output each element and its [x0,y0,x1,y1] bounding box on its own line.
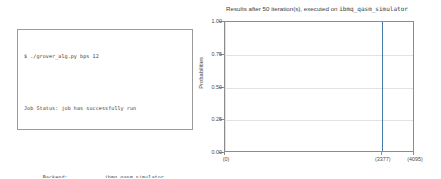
x-tick-mark-3377 [381,152,382,155]
y-tick-label: 0.25 [212,116,223,122]
y-axis-label: Probabilities [198,38,204,108]
y-tick-label: 0.75 [212,51,223,57]
x-tick-label-3377: (3377) [375,156,391,162]
x-tick-mark-4095 [413,152,414,155]
x-tick-label-0: (0) [223,156,230,162]
gridline-vertical [225,22,226,151]
entry-value: ibmq_qasm_simulator [105,174,164,179]
chart-title-backend: ibmq_qasm_simulator [339,5,408,12]
terminal-text: $ ./grover_alg.py bps 12 Job Status: job… [24,35,186,178]
y-tick-label: 0.00 [212,149,223,155]
gridline-horizontal [225,55,413,56]
chart-title: Results after 50 iteration(s), executed … [193,5,441,12]
x-tick-mark-0 [224,152,225,155]
y-tick-label: 1.00 [212,18,223,24]
x-tick-label-4095: (4095) [407,156,423,162]
results-chart: Results after 50 iteration(s), executed … [193,0,441,178]
plot-area [224,21,414,152]
terminal-output-panel: $ ./grover_alg.py bps 12 Job Status: job… [17,29,193,130]
terminal-spacer [24,130,186,139]
chart-title-prefix: Results after 50 iteration(s), executed … [226,5,339,12]
terminal-entry-backend: Backend:ibmq_qasm_simulator [24,164,186,173]
gridline-horizontal [225,120,413,121]
terminal-status-line: Job Status: job has successfully run [24,104,186,113]
terminal-spacer [24,78,186,87]
y-tick-label: 0.50 [212,84,223,90]
gridline-horizontal [225,88,413,89]
entry-key: Backend: [43,173,105,179]
terminal-prompt-line: $ ./grover_alg.py bps 12 [24,52,186,61]
data-bar-3377 [382,22,383,151]
